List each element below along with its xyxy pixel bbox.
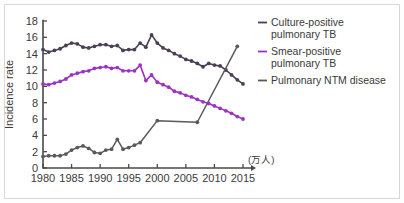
data-point xyxy=(121,69,125,73)
chart-legend: Culture-positivepulmonary TBSmear-positi… xyxy=(258,16,386,86)
data-point xyxy=(161,46,165,50)
data-point xyxy=(64,152,68,156)
data-point xyxy=(213,63,217,67)
data-point xyxy=(178,91,182,95)
legend-item-2[interactable]: Smear-positivepulmonary TB xyxy=(258,45,341,69)
data-point xyxy=(127,69,131,73)
legend-item-1[interactable]: Culture-positivepulmonary TB xyxy=(258,16,344,40)
data-point xyxy=(104,43,108,47)
data-point xyxy=(41,155,45,159)
legend-label-line2: pulmonary TB xyxy=(271,57,336,69)
data-point xyxy=(53,49,57,53)
data-point xyxy=(195,120,199,124)
data-point xyxy=(75,146,79,150)
x-tick-label: 1985 xyxy=(59,172,83,184)
y-axis-title: Incidence rate xyxy=(3,60,15,129)
y-tick-label: 14 xyxy=(26,48,38,60)
data-point xyxy=(98,151,102,155)
y-tick-label: 6 xyxy=(32,113,38,125)
legend-item-3[interactable]: Pulmonary NTM disease xyxy=(258,74,386,86)
data-point xyxy=(110,44,114,48)
data-point xyxy=(213,104,217,108)
legend-label-line1: Pulmonary NTM disease xyxy=(271,74,386,86)
data-point xyxy=(218,64,222,68)
data-point xyxy=(98,66,102,70)
x-axis-arrow xyxy=(251,165,256,171)
data-point xyxy=(70,148,74,152)
line-chart-plot: 19801985199019952000200520102015 0246810… xyxy=(0,0,404,203)
data-point xyxy=(110,147,114,151)
y-tick-label: 10 xyxy=(26,80,38,92)
data-point xyxy=(195,98,199,102)
x-tick-label: 1990 xyxy=(88,172,112,184)
data-point xyxy=(70,73,74,77)
data-point xyxy=(138,141,142,145)
data-point xyxy=(133,69,137,73)
data-series-group xyxy=(41,33,245,158)
x-axis-unit-label: (万人) xyxy=(248,154,274,165)
data-point xyxy=(115,66,119,70)
data-point xyxy=(167,49,171,53)
data-point xyxy=(115,44,119,48)
data-point xyxy=(184,93,188,97)
data-point xyxy=(207,62,211,66)
data-point xyxy=(173,89,177,93)
data-point xyxy=(150,33,154,37)
data-point xyxy=(64,44,68,48)
x-tick-label: 2010 xyxy=(202,172,226,184)
data-point xyxy=(81,70,85,74)
data-point xyxy=(235,115,239,119)
data-point xyxy=(121,147,125,151)
data-point xyxy=(235,78,239,82)
data-point xyxy=(87,46,91,50)
data-point xyxy=(230,111,234,115)
data-point xyxy=(138,41,142,45)
data-point xyxy=(190,59,194,63)
data-point xyxy=(150,73,154,77)
data-point xyxy=(190,95,194,99)
data-point xyxy=(104,65,108,69)
data-point xyxy=(121,49,125,53)
data-point xyxy=(81,45,85,49)
data-point xyxy=(41,48,45,52)
y-tick-label: 0 xyxy=(32,162,38,174)
data-point xyxy=(70,41,74,45)
data-point xyxy=(127,146,131,150)
y-tick-label: 16 xyxy=(26,31,38,43)
series-1 xyxy=(41,33,245,86)
series-2 xyxy=(41,63,245,121)
data-point xyxy=(178,54,182,58)
data-point xyxy=(133,48,137,52)
data-point xyxy=(173,52,177,56)
x-tick-label: 2015 xyxy=(231,172,255,184)
data-point xyxy=(47,83,51,87)
y-tick-label: 18 xyxy=(26,15,38,27)
legend-label-line2: pulmonary TB xyxy=(271,28,336,40)
data-point xyxy=(201,100,205,104)
x-tick-label: 2000 xyxy=(145,172,169,184)
data-point xyxy=(144,79,148,83)
data-point xyxy=(201,65,205,69)
data-point xyxy=(58,47,62,51)
series-3 xyxy=(41,44,239,158)
data-point xyxy=(93,151,97,155)
data-point xyxy=(87,69,91,73)
data-point xyxy=(138,63,142,67)
data-point xyxy=(184,57,188,61)
data-point xyxy=(161,83,165,87)
y-tick-label: 4 xyxy=(32,129,38,141)
legend-label-line1: Culture-positive xyxy=(271,16,344,28)
data-point xyxy=(155,119,159,123)
data-point xyxy=(47,154,51,158)
data-point xyxy=(98,43,102,47)
data-point xyxy=(93,66,97,70)
y-tick-label: 12 xyxy=(26,64,38,76)
data-point xyxy=(75,71,79,75)
data-point xyxy=(155,41,159,45)
x-tick-label: 2005 xyxy=(174,172,198,184)
data-point xyxy=(224,109,228,113)
data-point xyxy=(218,106,222,110)
data-point xyxy=(64,77,68,81)
data-point xyxy=(133,143,137,147)
y-axis-title-text: Incidence rate xyxy=(3,60,15,129)
